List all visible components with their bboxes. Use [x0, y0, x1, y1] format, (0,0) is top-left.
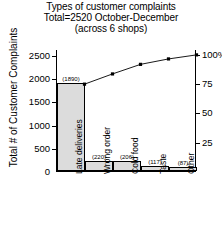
chart-title: Types of customer complaints Total=2520 … — [0, 1, 222, 34]
y-tick-mark — [52, 126, 56, 127]
cumulative-point-marker — [83, 83, 86, 86]
cumulative-point-marker — [111, 72, 114, 75]
y-tick-mark — [52, 149, 56, 150]
right-tick-mark — [196, 143, 200, 144]
right-tick-label: 25 — [202, 137, 213, 148]
category-label-taste: Taste — [158, 154, 168, 174]
category-label-cold-food: Cold food — [130, 138, 140, 174]
cumulative-point-marker — [167, 57, 170, 60]
cumulative-line-path — [85, 55, 197, 84]
y-tick-mark — [52, 79, 56, 80]
cumulative-point-marker — [139, 63, 142, 66]
y-tick-label: 0 — [12, 166, 50, 177]
right-tick-mark — [196, 113, 200, 114]
category-label-other: Other — [186, 153, 196, 174]
pareto-chart-figure: Types of customer complaints Total=2520 … — [0, 0, 222, 242]
y-tick-mark — [52, 56, 56, 57]
right-tick-label: 100% — [202, 49, 222, 60]
category-label-wrong-order: Wrong order — [102, 127, 112, 174]
right-tick-mark — [196, 55, 200, 56]
chart-title-line-1: Types of customer complaints — [0, 1, 222, 12]
y-tick-mark — [52, 102, 56, 103]
right-tick-label: 75 — [202, 78, 213, 89]
y-tick-label: 1000 — [12, 120, 50, 131]
category-label-late-deliveries: Late deliveries — [74, 119, 84, 174]
y-tick-label: 1500 — [12, 96, 50, 107]
chart-title-line-2: Total=2520 October-December — [0, 12, 222, 23]
y-tick-label: 2500 — [12, 50, 50, 61]
y-tick-label: 500 — [12, 143, 50, 154]
y-tick-label: 2000 — [12, 73, 50, 84]
right-tick-mark — [196, 84, 200, 85]
chart-title-line-3: (across 6 shops) — [0, 23, 222, 34]
right-tick-label: 50 — [202, 107, 213, 118]
